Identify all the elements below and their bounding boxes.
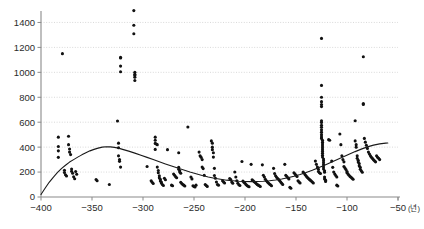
data-point (67, 135, 70, 138)
data-point (212, 156, 215, 159)
data-point (118, 160, 121, 163)
data-point (68, 147, 71, 150)
x-tick-label: −150 (285, 202, 306, 213)
x-tick-label: −400 (30, 202, 51, 213)
data-point (319, 172, 322, 175)
data-point (233, 171, 236, 174)
y-tick-label: 800 (19, 92, 35, 103)
data-point (361, 171, 364, 174)
data-point (328, 139, 331, 142)
data-point (378, 158, 381, 161)
data-point (238, 184, 241, 187)
data-point (331, 166, 334, 169)
data-point (186, 125, 189, 128)
x-axis-tick-labels: −400−350−300−250−200−150−100−50 (30, 202, 406, 213)
data-point (281, 183, 284, 186)
chart-container: 0200400600800100012001400 −400−350−300−2… (0, 0, 424, 229)
data-point (374, 160, 377, 163)
data-point (57, 149, 60, 152)
data-point (198, 151, 201, 154)
y-tick-label: 1000 (14, 67, 35, 78)
data-point (315, 163, 318, 166)
data-point (314, 160, 317, 163)
data-point (117, 142, 120, 145)
data-point (132, 24, 135, 27)
x-tick-label: −200 (234, 202, 255, 213)
data-point (320, 100, 323, 103)
data-point (320, 84, 323, 87)
y-tick-label: 0 (30, 191, 35, 202)
x-tick-label: −100 (336, 202, 357, 213)
data-point (67, 143, 70, 146)
data-point (352, 178, 355, 181)
data-point (335, 176, 338, 179)
data-point (201, 158, 204, 161)
data-point (69, 153, 72, 156)
data-point (354, 119, 357, 122)
data-point (355, 146, 358, 149)
data-point (116, 119, 119, 122)
data-point (65, 175, 68, 178)
data-point (283, 163, 286, 166)
data-point (133, 79, 136, 82)
data-point (194, 184, 197, 187)
data-point (154, 136, 157, 139)
data-point (248, 185, 251, 188)
data-point (211, 148, 214, 151)
y-tick-label: 400 (19, 142, 35, 153)
y-axis-tick-labels: 0200400600800100012001400 (14, 17, 35, 203)
data-point (73, 177, 76, 180)
data-point (211, 142, 214, 145)
data-point (213, 174, 216, 177)
data-point (324, 180, 327, 183)
data-point (362, 55, 365, 58)
data-point (312, 181, 315, 184)
data-point (320, 105, 323, 108)
data-point (71, 172, 74, 175)
data-point (156, 166, 159, 169)
data-point (362, 103, 365, 106)
y-tick-label: 1400 (14, 17, 35, 28)
data-point (132, 9, 135, 12)
data-point (96, 179, 99, 182)
data-point (213, 167, 216, 170)
data-point (119, 70, 122, 73)
data-point (162, 184, 165, 187)
data-point (217, 184, 220, 187)
data-point (164, 178, 167, 181)
data-point (206, 185, 209, 188)
data-point (75, 173, 78, 176)
y-tick-label: 200 (19, 166, 35, 177)
data-point (234, 176, 237, 179)
data-point (320, 121, 323, 124)
data-point (154, 139, 157, 142)
data-point (152, 182, 155, 185)
x-tick-label: −350 (81, 202, 102, 213)
data-point (320, 37, 323, 40)
data-point (259, 185, 262, 188)
data-point (261, 163, 264, 166)
data-point (320, 96, 323, 99)
data-point (133, 76, 136, 79)
data-point (272, 167, 275, 170)
data-point (166, 148, 169, 151)
data-point (171, 184, 174, 187)
y-tick-label: 1200 (14, 42, 35, 53)
data-point (57, 136, 60, 139)
data-point (175, 176, 178, 179)
data-point (119, 56, 122, 59)
data-point (119, 166, 122, 169)
data-point (57, 156, 60, 159)
data-point (336, 184, 339, 187)
data-point (117, 154, 120, 157)
data-point (190, 177, 193, 180)
data-point (61, 52, 64, 55)
data-point (212, 151, 215, 154)
data-point (339, 143, 342, 146)
tick-marks-group (38, 22, 399, 200)
data-points-group (57, 9, 381, 190)
data-point (146, 165, 149, 168)
data-point (177, 151, 180, 154)
data-point (270, 184, 273, 187)
data-point (119, 65, 122, 68)
